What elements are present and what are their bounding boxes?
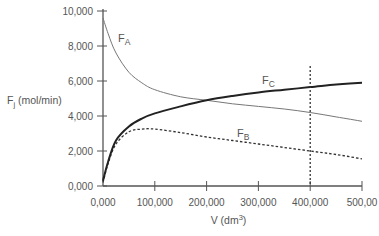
x-axis-title: V (dm3) <box>211 213 247 226</box>
y-tick-label: 4,000 <box>68 111 93 122</box>
series-group <box>103 18 362 186</box>
y-tick-label: 8,000 <box>68 41 93 52</box>
x-tick-label: 400,000 <box>292 197 329 208</box>
axes: 0,0002,0004,0006,0008,00010,0000,000100,… <box>62 6 377 209</box>
y-tick-label: 10,000 <box>62 6 93 17</box>
chart: 0,0002,0004,0006,0008,00010,0000,000100,… <box>0 0 379 236</box>
series-label-fb: FB <box>237 127 250 142</box>
series-label-fa: FA <box>118 32 131 47</box>
series-fa-line <box>103 18 362 121</box>
x-tick-label: 100,000 <box>137 197 174 208</box>
series-fc-line <box>103 83 362 181</box>
y-axis-title: Fj (mol/min) <box>7 94 62 109</box>
y-tick-label: 0,000 <box>68 181 93 192</box>
series-label-fc: FC <box>262 74 275 89</box>
y-tick-label: 6,000 <box>68 76 93 87</box>
x-tick-label: 300,000 <box>240 197 277 208</box>
x-tick-label: 0,000 <box>90 197 115 208</box>
x-tick-label: 200,000 <box>189 197 226 208</box>
x-tick-label: 500,00 <box>347 197 378 208</box>
series-fb-line <box>103 129 362 183</box>
y-tick-label: 2,000 <box>68 146 93 157</box>
